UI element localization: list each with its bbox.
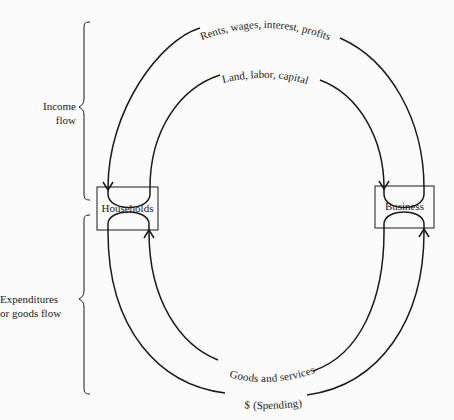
flow-label-spending: $ (Spending): [244, 396, 303, 412]
income-line1: Income: [10, 99, 76, 113]
expenditure-flow-label: Expenditures or goods flow: [0, 292, 78, 320]
income-line2: flow: [10, 113, 76, 127]
expend-line1: Expenditures: [0, 292, 78, 306]
income-flow-label: Income flow: [10, 99, 76, 127]
flow-label-goods: Goods and services: [229, 363, 317, 384]
business-label: Business: [375, 200, 434, 212]
circular-flow-diagram: Rents, wages, interest, profits Land, la…: [0, 0, 454, 420]
households-label: Households: [97, 202, 158, 214]
expend-line2: or goods flow: [0, 306, 78, 320]
